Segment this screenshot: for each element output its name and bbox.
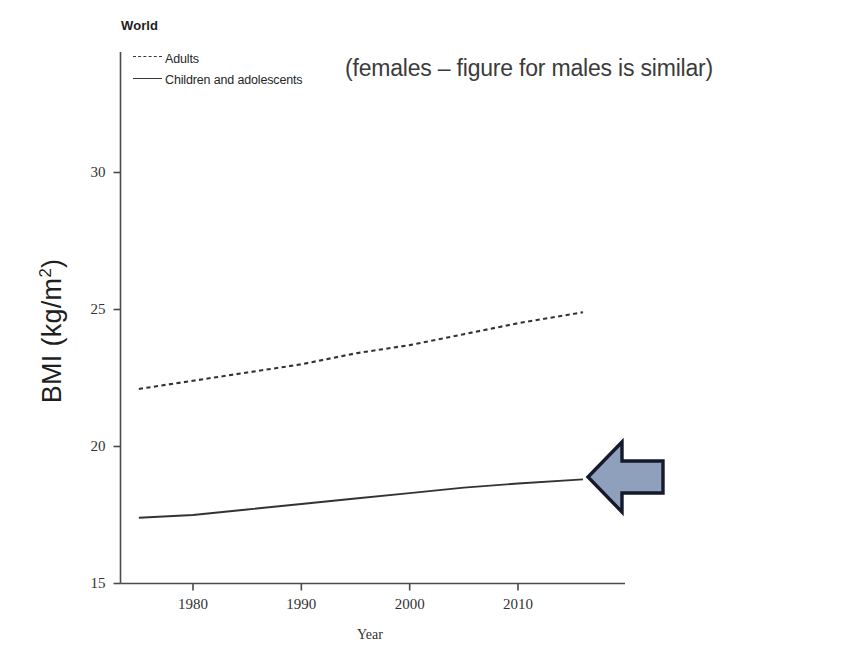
series-line-adults — [139, 312, 583, 389]
callout-arrow-left-shape — [588, 442, 663, 512]
series-line-children-and-adolescents — [139, 479, 583, 517]
axis-lines — [114, 52, 626, 591]
plot-area — [0, 0, 860, 665]
bmi-trend-figure: World Adults Children and adolescents (f… — [0, 0, 860, 665]
callout-arrow-left — [588, 442, 663, 512]
data-series-layer — [139, 312, 583, 518]
